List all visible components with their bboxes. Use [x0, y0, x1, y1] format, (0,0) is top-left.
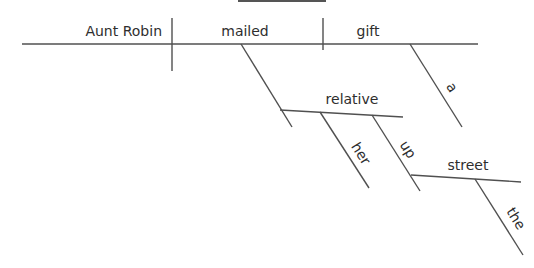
word-subject: Aunt Robin: [85, 23, 162, 39]
word-article-street: the: [503, 204, 529, 232]
word-possessive: her: [348, 139, 374, 167]
prepositional-object-line: [280, 110, 403, 117]
word-verb: mailed: [221, 23, 269, 39]
word-street: street: [448, 157, 489, 173]
sentence-diagram: Aunt Robin mailed gift a relative her up…: [0, 0, 534, 268]
word-direct-object: gift: [357, 23, 380, 39]
word-adverb: up: [397, 138, 420, 162]
word-article-gift: a: [443, 79, 461, 95]
top-bar: [238, 0, 326, 2]
street-line: [411, 175, 521, 182]
preposition-slant: [241, 44, 292, 127]
word-prepositional-object: relative: [326, 91, 379, 107]
